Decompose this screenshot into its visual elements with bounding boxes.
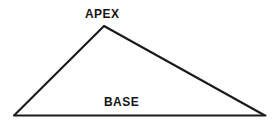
base-label: BASE: [104, 95, 139, 108]
triangle-diagram: APEX BASE: [0, 0, 272, 127]
triangle-left-side-line: [15, 26, 105, 115]
triangle-outline: [14, 26, 266, 116]
apex-label: APEX: [85, 7, 119, 20]
